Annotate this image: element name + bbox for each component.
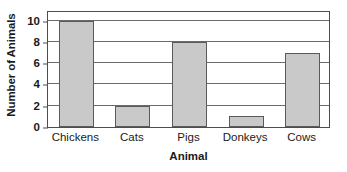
plot-area xyxy=(47,11,330,128)
bar xyxy=(172,42,207,127)
x-tick-label: Chickens xyxy=(52,130,99,145)
x-axis-title: Animal xyxy=(47,150,330,162)
y-tick-label: 8 xyxy=(34,37,40,49)
y-tick-label: 10 xyxy=(27,16,40,28)
bar xyxy=(285,53,320,127)
x-tick-label: Donkeys xyxy=(223,130,268,145)
x-tick-label: Cats xyxy=(120,130,144,145)
bar xyxy=(229,116,264,127)
x-axis-tick-labels: ChickensCatsPigsDonkeysCows xyxy=(47,130,330,147)
x-tick-label: Pigs xyxy=(177,130,199,145)
y-tick-label: 6 xyxy=(34,58,40,70)
bars-layer xyxy=(48,12,329,127)
y-tick-label: 4 xyxy=(34,80,40,92)
bar xyxy=(115,106,150,127)
y-axis-title-label: Number of Animals xyxy=(5,13,17,116)
y-axis-tick-labels: 0246810 xyxy=(22,11,43,128)
y-tick-label: 0 xyxy=(34,122,40,134)
bar xyxy=(59,21,94,127)
bar-chart: Number of Animals 0246810 ChickensCatsPi… xyxy=(0,0,347,172)
x-tick-label: Cows xyxy=(287,130,316,145)
y-axis-title: Number of Animals xyxy=(0,0,22,130)
y-tick-label: 2 xyxy=(34,101,40,113)
